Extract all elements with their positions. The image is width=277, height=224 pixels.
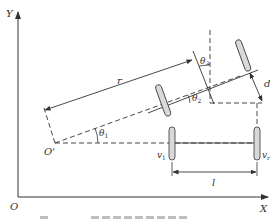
x-axis-label: X [259, 203, 268, 214]
origin-label: O [10, 201, 18, 212]
wheel-right [254, 127, 260, 160]
track-label: l [212, 177, 215, 188]
offset-arrow [250, 73, 262, 101]
wheel-left-label: v1 [157, 150, 166, 161]
wheel-tilted-left [155, 84, 172, 117]
construction-lines [44, 30, 262, 143]
wheel-right-label: vr [262, 150, 270, 161]
radius-label: r [117, 75, 123, 86]
figure-caption-cutoff [40, 216, 240, 224]
y-axis-label: Y [6, 8, 14, 19]
icr-label: O' [44, 146, 55, 157]
wheel-tilted-right [235, 39, 252, 72]
theta2-arc [188, 95, 190, 103]
icr-angled-dashed [55, 75, 243, 143]
diagram-canvas: Y X O r d l [0, 0, 277, 224]
offset-label: d [264, 78, 270, 89]
wheel-left [169, 127, 175, 160]
theta2-label: θ2 [192, 93, 201, 104]
theta3-label: θ3 [200, 56, 209, 67]
icr-perpendicular-dashed [44, 108, 55, 143]
coordinate-axes [18, 12, 268, 197]
theta1-label: θ1 [99, 128, 108, 139]
kinematic-diagram: Y X O r d l [0, 0, 277, 224]
theta1-arc [95, 128, 98, 143]
